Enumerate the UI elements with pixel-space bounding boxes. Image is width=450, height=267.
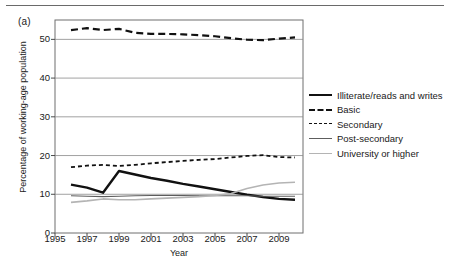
series-line-secondary: [71, 155, 295, 167]
legend-key-university: [309, 148, 332, 158]
y-tick-label-40: 40: [24, 73, 50, 82]
legend-row-4[interactable]: Post-secondary: [309, 132, 449, 147]
x-axis-title: Year: [55, 248, 303, 258]
legend-row-3[interactable]: Secondary: [309, 117, 449, 132]
y-tick-label-50: 50: [24, 34, 50, 43]
legend-row-5[interactable]: University or higher: [309, 146, 449, 161]
y-tick-label-30: 30: [24, 112, 50, 121]
y-tick-label-10: 10: [24, 189, 50, 198]
legend-label-4: Post-secondary: [337, 133, 403, 144]
chart-legend: Illiterate/reads and writesBasicSecondar…: [309, 88, 449, 161]
x-tick-label-2009: 2009: [259, 233, 299, 244]
x-axis-tick-labels: 19951997199920012003200520072009: [0, 233, 450, 247]
legend-row-2[interactable]: Basic: [309, 103, 449, 118]
legend-label-1: Illiterate/reads and writes: [337, 90, 443, 101]
legend-label-3: Secondary: [337, 119, 382, 130]
legend-key-illiterate: [309, 90, 332, 100]
legend-label-2: Basic: [337, 104, 360, 115]
legend-key-post-secondary: [309, 134, 332, 144]
legend-row-1[interactable]: Illiterate/reads and writes: [309, 88, 449, 103]
legend-key-secondary: [309, 119, 332, 129]
figure-panel-a: (a) Percentage of working-age population…: [0, 0, 450, 267]
y-axis-tick-labels: 01020304050: [20, 0, 50, 267]
y-tick-label-20: 20: [24, 151, 50, 160]
legend-label-5: University or higher: [337, 148, 419, 159]
plot-frame: [55, 20, 303, 233]
series-line-basic: [71, 28, 295, 40]
legend-key-basic: [309, 105, 332, 115]
